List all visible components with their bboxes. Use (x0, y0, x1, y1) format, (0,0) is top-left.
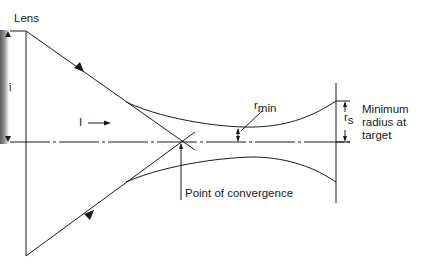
upper-ray-arrowhead (74, 62, 84, 72)
current-label: I (79, 117, 82, 129)
rmin-bottom-arrowhead (236, 136, 240, 142)
beam-diagram: Lens i I rmin rs Minimum radius at targe… (0, 0, 430, 273)
rmin-sub: min (258, 102, 277, 114)
rs-label: rs (344, 112, 354, 124)
rs-top-arrowhead (343, 101, 347, 107)
lens-label: Lens (14, 13, 39, 25)
target-note-line1: Minimum (362, 104, 409, 116)
aperture-bottom-arrowhead (5, 136, 11, 142)
target-note-line3: target (362, 130, 391, 142)
aperture-top-arrowhead (5, 31, 11, 37)
rmin-top-arrowhead (236, 128, 240, 134)
aperture-label: i (9, 82, 11, 93)
rmin-leader (241, 111, 262, 131)
rs-bottom-arrowhead (343, 136, 347, 142)
lower-envelope (126, 157, 336, 182)
lower-ray (26, 132, 195, 256)
rmin-label: rmin (254, 100, 276, 112)
upper-ray (26, 31, 195, 150)
current-arrowhead (104, 121, 111, 126)
lower-ray-arrowhead (84, 210, 94, 220)
convergence-label: Point of convergence (185, 188, 293, 200)
target-note-line2: radius at (362, 117, 406, 129)
rs-sub: s (348, 114, 354, 126)
